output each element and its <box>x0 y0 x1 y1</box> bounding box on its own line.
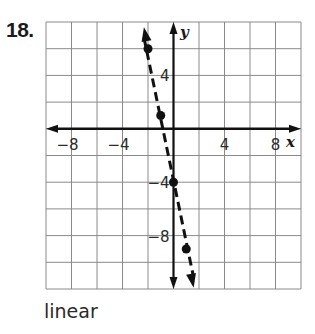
x-axis-left-arrow-icon <box>46 125 58 133</box>
y-tick-label: 4 <box>160 67 170 85</box>
x-axis-right-arrow-icon <box>289 125 301 133</box>
coordinate-graph: −8−4484−4−8 x y <box>0 0 315 334</box>
x-tick-label: −8 <box>56 136 78 154</box>
x-tick-label: −4 <box>107 136 129 154</box>
y-tick-label: −8 <box>147 228 169 246</box>
x-axis-label: x <box>285 133 296 151</box>
y-axis-down-arrow-icon <box>170 277 178 289</box>
x-tick-label: 8 <box>271 136 281 154</box>
line-up-arrow-icon <box>142 27 152 42</box>
answer-text: linear <box>44 300 98 322</box>
data-point <box>182 244 191 253</box>
y-axis-up-arrow-icon <box>170 22 178 34</box>
y-tick-label: −4 <box>147 174 169 192</box>
x-tick-label: 4 <box>220 136 230 154</box>
data-point <box>156 111 165 120</box>
tick-labels: −8−4484−4−8 <box>56 67 280 245</box>
data-series <box>142 27 196 287</box>
data-point <box>144 44 153 53</box>
data-point <box>169 178 178 187</box>
line-down-arrow-icon <box>186 273 196 288</box>
y-axis-label: y <box>179 23 190 41</box>
